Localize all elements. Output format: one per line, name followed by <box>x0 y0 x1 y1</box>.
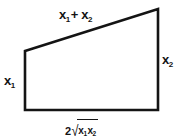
label-top-side: x1+x2 <box>59 6 93 22</box>
label-left-side: x1 <box>4 72 16 88</box>
label-right-side: x2 <box>162 51 174 67</box>
radical-expression: √x1x2 <box>71 120 100 138</box>
trapezoid-outline <box>25 9 158 110</box>
label-bottom-side: 2√x1x2 <box>65 120 100 138</box>
radicand-sub-1: 1 <box>83 130 87 137</box>
label-top-operator: + <box>71 7 79 22</box>
trapezoid-diagram: x1+x2 x1 x2 2√x1x2 <box>0 0 181 140</box>
radicand: x1x2 <box>77 119 97 137</box>
label-top-sub-1: 1 <box>66 15 70 24</box>
label-right-sub: 2 <box>169 60 173 69</box>
radicand-sub-2: 2 <box>93 130 97 137</box>
label-left-sub: 1 <box>11 81 15 90</box>
label-top-sub-2: 2 <box>88 15 92 24</box>
